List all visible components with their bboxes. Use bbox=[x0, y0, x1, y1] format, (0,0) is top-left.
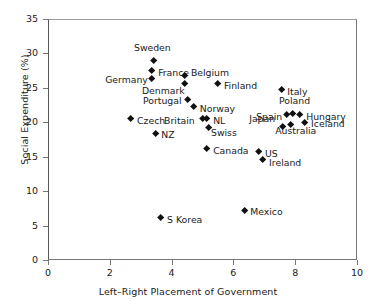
y-tick-mark bbox=[43, 53, 48, 54]
x-tick-label: 4 bbox=[157, 267, 187, 278]
x-tick-mark bbox=[357, 260, 358, 265]
plot-area bbox=[48, 19, 357, 260]
x-tick-mark bbox=[48, 260, 49, 265]
x-tick-mark bbox=[233, 260, 234, 265]
data-point-label: Australia bbox=[275, 126, 316, 135]
x-tick-label: 10 bbox=[342, 267, 372, 278]
data-point-label: Belgium bbox=[191, 68, 229, 77]
y-axis-label: Social Expenditure (%) bbox=[19, 0, 30, 230]
x-tick-mark bbox=[295, 260, 296, 265]
data-point-label: Czech bbox=[137, 116, 165, 125]
data-point-label: NL bbox=[213, 116, 225, 125]
y-tick-mark bbox=[43, 88, 48, 89]
data-point-label: Japan bbox=[249, 114, 275, 123]
data-point-label: Portugal bbox=[143, 96, 182, 105]
data-point-label: Germany bbox=[105, 75, 148, 84]
data-point-label: Poland bbox=[279, 96, 310, 105]
x-tick-label: 8 bbox=[280, 267, 310, 278]
data-point-label: Finland bbox=[224, 81, 257, 90]
x-tick-label: 2 bbox=[95, 267, 125, 278]
data-point-label: Swiss bbox=[211, 128, 237, 137]
y-tick-mark bbox=[43, 122, 48, 123]
data-point-label: Ireland bbox=[269, 158, 301, 167]
x-tick-label: 6 bbox=[218, 267, 248, 278]
x-axis-label: Left–Right Placement of Government bbox=[0, 286, 376, 297]
data-point-label: S Korea bbox=[167, 215, 202, 224]
data-point-label: Denmark bbox=[142, 86, 185, 95]
y-tick-label: 0 bbox=[10, 254, 38, 265]
data-point-label: Norway bbox=[200, 104, 235, 113]
data-point-label: Sweden bbox=[134, 43, 171, 52]
data-point-label: NZ bbox=[161, 130, 174, 139]
scatter-chart-figure: 051015202530350246810 SwedenFranceGerman… bbox=[0, 0, 376, 306]
x-tick-mark bbox=[172, 260, 173, 265]
data-point-label: Britain bbox=[164, 116, 195, 125]
x-tick-label: 0 bbox=[33, 267, 63, 278]
y-tick-mark bbox=[43, 157, 48, 158]
data-point-label: Canada bbox=[213, 146, 248, 155]
y-tick-mark bbox=[43, 191, 48, 192]
y-tick-mark bbox=[43, 226, 48, 227]
y-tick-mark bbox=[43, 19, 48, 20]
data-point-label: Mexico bbox=[250, 207, 282, 216]
x-tick-mark bbox=[110, 260, 111, 265]
